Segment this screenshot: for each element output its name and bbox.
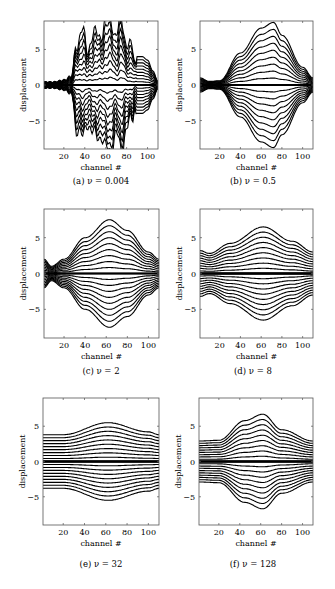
y-tick-label: −5 [183, 493, 195, 502]
displacement-trace [199, 414, 313, 441]
x-axis-label: channel # [235, 539, 277, 548]
subplot-caption: (f) ν = 128 [213, 559, 293, 569]
y-axis-label: displacement [174, 434, 183, 489]
x-tick-label: 60 [256, 528, 266, 537]
plot-area: 2040608010050−5channel #displacement [0, 0, 335, 589]
displacement-trace [199, 482, 313, 509]
data-lines [199, 414, 313, 509]
x-tick-label: 20 [214, 528, 224, 537]
x-tick-label: 40 [235, 528, 245, 537]
x-tick-label: 100 [295, 528, 310, 537]
y-tick-label: 0 [190, 458, 195, 467]
y-tick-label: 5 [190, 422, 195, 431]
x-tick-label: 80 [277, 528, 287, 537]
